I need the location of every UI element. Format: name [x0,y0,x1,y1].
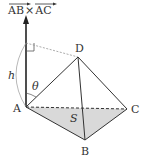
vector-arrowhead-ac-icon [53,3,57,6]
height-label: h [8,69,15,82]
height-arc [16,43,26,107]
point-label-d: D [75,42,84,55]
theta-arc [26,93,36,97]
point-label-c: C [131,103,139,116]
tetrahedron-diagram: AB×AC D A C B h θ S [0,0,147,164]
point-label-b: B [81,145,89,158]
point-label-a: A [12,102,22,115]
area-label: S [70,112,78,125]
angle-label: θ [32,80,39,93]
edge-dc [78,57,127,109]
cross-product-label: AB×AC [7,4,52,17]
